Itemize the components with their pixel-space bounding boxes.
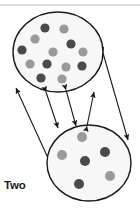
top-population-individual-light xyxy=(48,47,57,56)
two-species-diagram: Two species xyxy=(0,0,140,214)
outer-right-arrow xyxy=(103,53,128,140)
top-population-individual-light xyxy=(61,62,70,71)
inner-arrow-1 xyxy=(46,92,58,128)
bottom-population-individual-light xyxy=(105,171,115,181)
top-population-group xyxy=(13,12,103,92)
bottom-population-individual-dark xyxy=(80,156,90,166)
caption-two-species: Two species xyxy=(4,154,45,214)
bottom-population-individual-light xyxy=(57,150,67,160)
inner-arrow-3 xyxy=(87,92,94,126)
top-population-individual-light xyxy=(59,24,68,33)
top-population-individual-dark xyxy=(77,61,86,70)
bottom-population-individual-dark xyxy=(100,147,110,157)
bottom-population-individual-light xyxy=(77,132,87,142)
top-population-individual-dark xyxy=(36,73,45,82)
top-population-individual-light xyxy=(25,59,34,68)
top-population-individual-dark xyxy=(66,39,75,48)
top-population-individual-light xyxy=(57,74,66,83)
inner-connector-arrows xyxy=(46,90,94,128)
top-population-individual-light xyxy=(30,34,39,43)
top-population-individual-dark xyxy=(40,23,49,32)
top-population-individual-dark xyxy=(17,45,26,54)
inner-arrow-2 xyxy=(66,90,76,126)
caption-line-1: Two xyxy=(4,179,45,192)
outer-left-arrow xyxy=(16,88,48,158)
top-population-individual-light xyxy=(78,47,87,56)
top-population-individual-dark xyxy=(42,59,51,68)
bottom-population-group xyxy=(47,125,131,201)
bottom-population-individual-dark xyxy=(74,179,84,189)
